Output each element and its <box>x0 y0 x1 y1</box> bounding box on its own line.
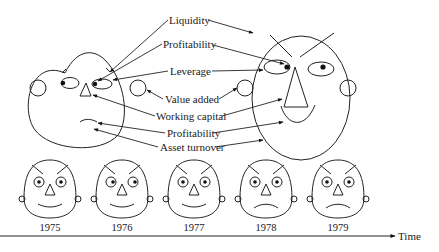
label-liquidity: Liquidity <box>169 14 210 26</box>
arrow-leverage-right <box>212 70 263 71</box>
left-pupil-right <box>93 82 97 86</box>
nose <box>45 184 55 195</box>
label-profitability-top: Profitability <box>163 38 217 50</box>
right-pupil-right <box>320 64 325 69</box>
year-label-1979: 1979 <box>328 222 349 233</box>
face-outline <box>96 160 148 218</box>
pupil-left <box>325 180 329 184</box>
mouth-frown <box>254 204 278 208</box>
right-pupil-left <box>284 64 289 69</box>
pupil-left <box>253 180 257 184</box>
pupil-left <box>37 180 41 184</box>
nose <box>261 184 271 195</box>
arrow-working-capital-left <box>93 95 155 116</box>
arrow-profitability-bottom-right <box>213 122 283 133</box>
face-1976: 1976 <box>91 160 153 233</box>
pupil-right <box>347 180 351 184</box>
face-1977: 1977 <box>163 160 225 233</box>
year-label-1978: 1978 <box>256 222 277 233</box>
label-profitability-bottom: Profitability <box>167 127 221 139</box>
eyebrow-left <box>32 165 43 174</box>
label-working-capital: Working capital <box>156 110 226 122</box>
label-value-added: Value added <box>165 93 220 105</box>
face-outline <box>24 160 76 218</box>
eyebrow-left <box>248 165 259 174</box>
left-pupil-left <box>61 81 65 85</box>
right-face-outline <box>252 36 350 160</box>
timeline-faces: 19751976197719781979 <box>19 160 369 233</box>
left-mouth <box>80 119 97 122</box>
face-1978: 1978 <box>235 160 297 233</box>
pupil-left <box>181 180 185 184</box>
year-label-1975: 1975 <box>40 222 61 233</box>
eyebrow-left <box>176 165 187 174</box>
left-large-face <box>28 53 146 148</box>
pupil-right <box>133 180 137 184</box>
mouth-frown <box>326 204 350 208</box>
left-face-arrows <box>93 20 168 147</box>
face-1975: 1975 <box>19 160 81 233</box>
nose <box>117 184 127 195</box>
time-axis-label: Time <box>398 230 421 242</box>
pupil-right <box>275 180 279 184</box>
year-label-1976: 1976 <box>112 222 133 233</box>
eyebrow-right <box>57 165 68 174</box>
face-outline <box>312 160 364 218</box>
right-ear-left <box>237 80 253 96</box>
year-label-1977: 1977 <box>184 222 205 233</box>
eyebrow-right <box>345 165 356 174</box>
arrow-liquidity-right <box>208 20 253 33</box>
eyebrow-right <box>201 165 212 174</box>
arrow-profitability-bottom-left <box>98 123 165 133</box>
right-eye-right <box>308 62 334 76</box>
label-leverage: Leverage <box>170 65 211 77</box>
arrow-value-added-right <box>219 88 237 99</box>
eyebrow-right <box>273 165 284 174</box>
right-nose <box>284 67 308 107</box>
left-ear-right <box>130 80 146 96</box>
nose <box>333 184 343 195</box>
left-nose <box>80 83 91 96</box>
mouth-smile <box>38 204 62 207</box>
arrow-value-added-left <box>147 90 163 99</box>
arrow-leverage-left <box>113 71 168 80</box>
mouth-smile <box>182 204 206 207</box>
right-ear-right <box>340 80 356 96</box>
chernoff-face-diagram: Liquidity Profitability Leverage Value a… <box>0 0 439 252</box>
arrow-profitability-right <box>213 45 284 64</box>
left-eyebrow-right <box>106 68 110 72</box>
eyebrow-left <box>104 165 115 174</box>
pupil-right <box>203 180 207 184</box>
face-1979: 1979 <box>307 160 369 233</box>
eyebrow-right <box>129 165 140 174</box>
mouth-smile <box>110 204 134 207</box>
right-mouth <box>281 105 315 122</box>
pupil-left <box>111 180 115 184</box>
face-outline <box>168 160 220 218</box>
eyebrow-left <box>320 165 331 174</box>
face-outline <box>240 160 292 218</box>
nose <box>189 184 199 195</box>
pupil-right <box>59 180 63 184</box>
left-ear-left <box>30 80 46 96</box>
